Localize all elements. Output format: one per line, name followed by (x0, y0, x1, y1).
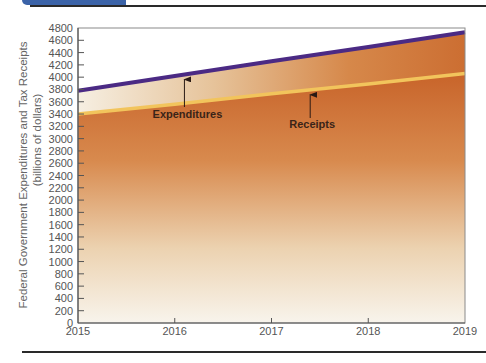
y-tick-label: 1000 (49, 256, 73, 268)
expenditures-label: Expenditures (153, 108, 223, 120)
x-tick-label: 2019 (453, 325, 477, 337)
y-tick-label: 2400 (49, 170, 73, 182)
y-tick-label: 3600 (49, 96, 73, 108)
y-tick-label: 3200 (49, 120, 73, 132)
receipts-label: Receipts (289, 118, 335, 130)
x-tick-label: 2015 (66, 325, 90, 337)
y-tick-label: 4000 (49, 71, 73, 83)
y-tick-label: 4600 (49, 34, 73, 46)
y-axis-title: Federal Government Expenditures and Tax … (17, 41, 43, 308)
y-tick-label: 2200 (49, 182, 73, 194)
y-tick-label: 1600 (49, 219, 73, 231)
y-tick-label: 800 (55, 268, 73, 280)
y-axis-title-line1: Federal Government Expenditures and Tax … (17, 41, 29, 308)
y-tick-label: 1200 (49, 243, 73, 255)
y-tick-label: 4200 (49, 59, 73, 71)
y-tick-label: 4400 (49, 47, 73, 59)
y-tick-label: 2000 (49, 194, 73, 206)
y-axis-title-line2: (billions of dollars) (31, 93, 43, 186)
y-tick-label: 4800 (49, 22, 73, 34)
receipts-area (78, 74, 465, 324)
y-tick-label: 400 (55, 292, 73, 304)
y-tick-label: 1800 (49, 206, 73, 218)
x-tick-label: 2018 (356, 325, 380, 337)
x-tick-label: 2017 (259, 325, 283, 337)
y-tick-label: 2600 (49, 157, 73, 169)
y-tick-label: 3800 (49, 83, 73, 95)
y-tick-label: 1400 (49, 231, 73, 243)
y-tick-label: 3400 (49, 108, 73, 120)
y-tick-label: 2800 (49, 145, 73, 157)
y-tick-label: 200 (55, 305, 73, 317)
y-tick-label: 600 (55, 280, 73, 292)
area-chart: 0200400600800100012001400160018002000220… (0, 0, 486, 363)
x-tick-label: 2016 (163, 325, 187, 337)
y-tick-label: 3000 (49, 133, 73, 145)
